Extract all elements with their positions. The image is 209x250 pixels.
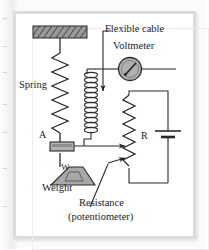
circuit-wiring: [74, 91, 168, 183]
ceiling-support: [33, 26, 87, 38]
label-spring: Spring: [19, 80, 47, 91]
label-potentiometer: (potentiometer): [68, 212, 133, 223]
label-resistance: Resistance: [79, 198, 124, 209]
voltmeter-gauge: [102, 58, 176, 81]
label-weight: Weight: [42, 183, 72, 194]
label-contact-a: A: [39, 130, 46, 140]
scan-tick: [3, 132, 7, 133]
lower-loop-wire: [129, 168, 168, 183]
label-voltmeter: Voltmeter: [113, 41, 154, 52]
scan-tick: [3, 72, 7, 73]
zigzag-spring: [52, 53, 68, 133]
battery-cell: [155, 119, 181, 143]
scan-tick: [3, 206, 7, 207]
upper-loop-wire: [129, 91, 168, 119]
flexible-cable-leader: [103, 31, 111, 91]
wiper-arrow-lower: [108, 158, 125, 163]
label-resistor-r: R: [141, 131, 148, 141]
coil-bottom-lead: [84, 133, 91, 146]
sliding-contact-block: [50, 142, 74, 151]
scan-tick: [3, 104, 7, 105]
coil-turns: [85, 72, 98, 132]
scan-tick: [3, 18, 7, 19]
label-flexible-cable: Flexible cable: [105, 24, 164, 35]
helical-coil: [84, 69, 102, 146]
label-weight-block: W: [61, 163, 70, 172]
zigzag-potentiometer: [123, 95, 135, 166]
scan-tick: [3, 46, 7, 47]
scan-tick: [3, 168, 7, 169]
